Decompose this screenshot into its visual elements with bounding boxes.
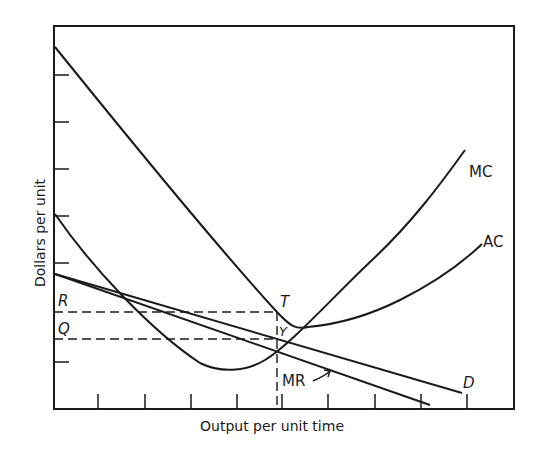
mr-pointer-arrow: [313, 370, 330, 381]
t-label: T: [280, 293, 291, 311]
cost-revenue-diagram: MC AC MR D T Y R Q Output per unit time …: [0, 0, 538, 465]
dashed-guides: [54, 312, 277, 409]
mr-label: MR: [282, 372, 305, 390]
d-label: D: [463, 374, 475, 392]
ac-label: AC: [483, 233, 503, 251]
x-axis-title: Output per unit time: [200, 418, 344, 434]
mc-curve: [55, 150, 465, 370]
y-label: Y: [279, 324, 288, 339]
q-label: Q: [58, 320, 70, 338]
plot-frame: [54, 26, 514, 409]
y-axis-ticks: [54, 75, 69, 362]
ac-curve: [55, 47, 482, 328]
x-axis-ticks: [98, 394, 467, 409]
r-label: R: [58, 292, 68, 310]
y-axis-title: Dollars per unit: [32, 178, 48, 287]
mc-label: MC: [469, 163, 492, 181]
